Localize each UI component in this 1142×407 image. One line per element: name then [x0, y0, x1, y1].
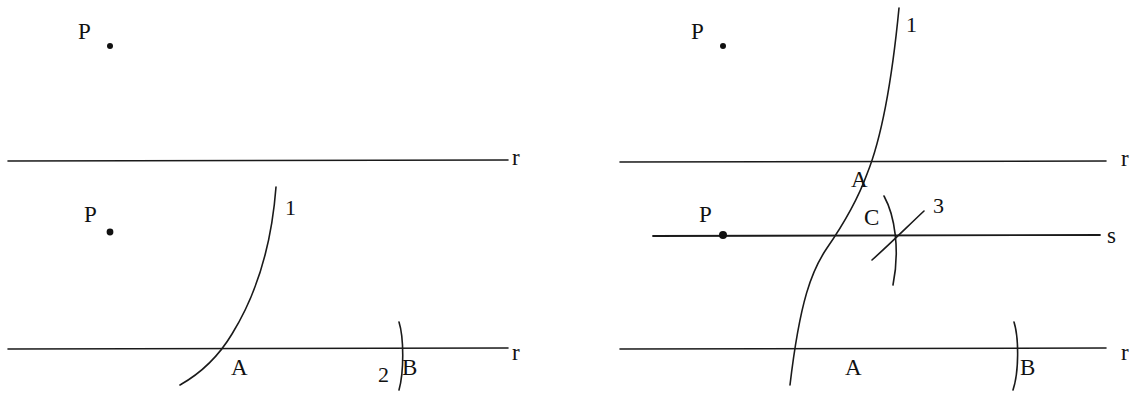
- right-label-r-top: r: [1121, 147, 1129, 170]
- right-label-point-b: B: [1020, 356, 1035, 379]
- right-point-p-top: [720, 43, 726, 49]
- right-label-arc-1: 1: [906, 13, 917, 36]
- panel-right-strokes: [620, 8, 1106, 390]
- left-point-p-bottom: [107, 229, 114, 236]
- left-line-r-bottom: [8, 348, 508, 349]
- right-label-p-top: P: [691, 20, 704, 43]
- construction-canvas: [0, 0, 1142, 407]
- right-arc-1: [790, 8, 899, 385]
- right-label-point-a-bottom: A: [845, 356, 862, 379]
- left-label-point-a: A: [231, 356, 248, 379]
- right-point-p-on-s: [719, 231, 727, 239]
- left-label-arc-2: 2: [378, 363, 389, 386]
- right-line-r-bottom: [620, 348, 1106, 349]
- geometry-figure: P r P 1 A 2 B r P 1 r A P C 3 s A B r: [0, 0, 1142, 407]
- left-label-p-top: P: [78, 20, 91, 43]
- right-arc-b: [1013, 322, 1018, 390]
- right-label-p-on-s: P: [699, 203, 712, 226]
- left-label-p-bottom: P: [84, 203, 97, 226]
- left-label-point-b: B: [402, 356, 417, 379]
- left-point-p-top: [107, 43, 113, 49]
- right-arc-through-c: [884, 196, 896, 285]
- left-line-r-top: [8, 160, 508, 161]
- right-label-arc-3: 3: [933, 194, 944, 217]
- right-label-line-s: s: [1107, 224, 1116, 247]
- right-line-r-top: [620, 161, 1106, 162]
- right-label-point-a-top: A: [851, 168, 868, 191]
- left-label-r-top: r: [512, 146, 520, 169]
- left-label-r-bottom: r: [512, 341, 520, 364]
- right-label-point-c: C: [864, 206, 879, 229]
- left-arc-1: [180, 187, 276, 385]
- left-label-arc-1: 1: [285, 196, 296, 219]
- right-label-r-bottom: r: [1121, 341, 1129, 364]
- panel-left-strokes: [8, 43, 508, 390]
